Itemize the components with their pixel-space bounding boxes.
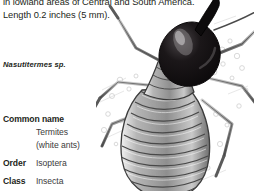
abdomen: [120, 88, 212, 191]
fact-value-class: Insecta: [36, 175, 63, 188]
fact-row-class: ClassInsecta: [3, 175, 133, 188]
field-guide-page: in lowland areas of Central and South Am…: [0, 0, 254, 191]
fact-row-order: OrderIsoptera: [3, 157, 133, 170]
fact-value-order: Isoptera: [36, 157, 67, 170]
fact-value-common-name-primary: Termites: [36, 126, 133, 139]
head: [159, 22, 220, 86]
fact-key-order: Order: [3, 157, 36, 170]
fact-row-common-name: Common name Termites (white ants): [3, 113, 133, 152]
antenna-right: [214, 8, 254, 30]
classification-table: Common name Termites (white ants) OrderI…: [3, 113, 133, 188]
fact-key-common-name: Common name: [3, 114, 64, 124]
fact-key-class: Class: [3, 175, 36, 188]
species-name: Nasutitermes sp.: [3, 60, 66, 69]
fact-value-common-name-secondary: (white ants): [36, 139, 133, 152]
